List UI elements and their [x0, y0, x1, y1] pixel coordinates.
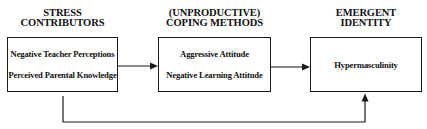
- box-item-aggressive-attitude: Aggressive Attitude: [180, 49, 249, 59]
- box-emergent-identity: Hypermasculinity: [310, 37, 422, 92]
- header-line: COPING METHODS: [158, 18, 271, 28]
- header-coping-methods: (UNPRODUCTIVE) COPING METHODS: [158, 8, 271, 28]
- arrow-coping-to-identity: [271, 64, 310, 71]
- box-item-negative-teacher-perceptions: Negative Teacher Perceptions: [11, 49, 115, 59]
- box-stress-contributors: Negative Teacher Perceptions Perceived P…: [7, 37, 118, 92]
- header-line: IDENTITY: [310, 18, 422, 28]
- box-item-perceived-parental-knowledge: Perceived Parental Knowledge: [8, 70, 116, 80]
- box-item-negative-learning-attitude: Negative Learning Attitude: [166, 70, 262, 80]
- arrow-stress-to-identity-bypass: [63, 94, 369, 123]
- arrowhead-icon: [362, 94, 369, 102]
- arrowhead-icon: [150, 63, 158, 70]
- header-emergent-identity: EMERGENT IDENTITY: [310, 8, 422, 28]
- box-item-hypermasculinity: Hypermasculinity: [334, 60, 397, 70]
- box-coping-methods: Aggressive Attitude Negative Learning At…: [158, 37, 271, 92]
- arrow-stress-to-coping: [118, 63, 158, 70]
- header-line: CONTRIBUTORS: [7, 18, 118, 28]
- arrowhead-icon: [302, 64, 310, 71]
- header-stress-contributors: STRESS CONTRIBUTORS: [7, 8, 118, 28]
